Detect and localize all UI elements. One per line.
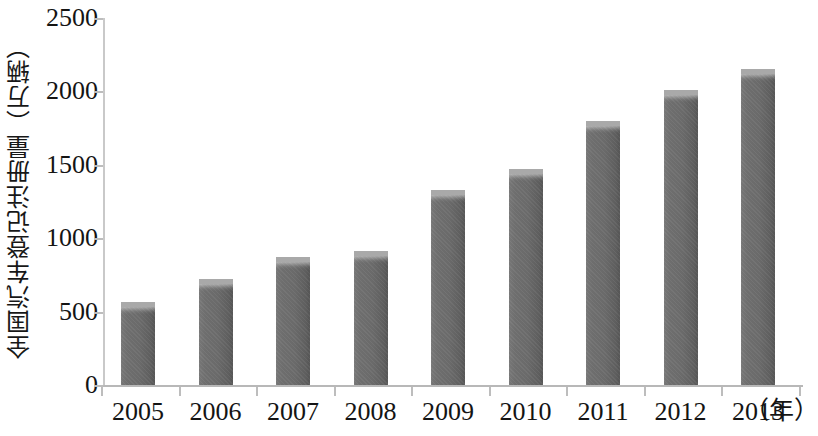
bar-2005	[121, 302, 155, 385]
x-tick-mark	[799, 387, 801, 396]
x-axis-line	[103, 385, 803, 387]
x-tick-mark	[101, 387, 103, 396]
bar-chart: 全国汽车登记注册量（万辆） 2500 2000 1500 1000 500 0 …	[0, 0, 818, 436]
bar-2010	[509, 169, 543, 385]
y-tick-label-1500: 1500	[36, 152, 98, 178]
y-tick-mark	[94, 238, 103, 240]
x-tick-label-2006: 2006	[171, 399, 261, 425]
x-tick-mark	[721, 387, 723, 396]
y-tick-label-0: 0	[36, 372, 98, 398]
x-tick-label-2007: 2007	[248, 399, 338, 425]
y-axis-title: 全国汽车登记注册量（万辆）	[0, 0, 40, 392]
y-tick-mark	[94, 165, 103, 167]
y-axis-tick-labels: 2500 2000 1500 1000 500 0	[36, 0, 98, 436]
bar-2009	[431, 190, 465, 385]
plot-area	[103, 18, 803, 385]
x-tick-label-2008: 2008	[326, 399, 416, 425]
x-tick-mark	[256, 387, 258, 396]
x-tick-label-2005: 2005	[93, 399, 183, 425]
x-tick-mark	[566, 387, 568, 396]
bar-2012	[664, 90, 698, 385]
bar-2006	[199, 279, 233, 385]
bar-2008	[354, 251, 388, 385]
y-tick-mark	[94, 18, 103, 20]
bar-2007	[276, 257, 310, 385]
x-tick-mark	[489, 387, 491, 396]
x-tick-mark	[411, 387, 413, 396]
y-tick-mark	[94, 91, 103, 93]
y-axis-title-text: 全国汽车登记注册量（万辆）	[8, 34, 32, 359]
x-axis-unit-label: （年）	[744, 398, 818, 423]
x-tick-label-2012: 2012	[636, 399, 726, 425]
y-tick-label-1000: 1000	[36, 225, 98, 251]
bar-2011	[586, 121, 620, 385]
y-tick-label-2500: 2500	[36, 5, 98, 31]
x-tick-label-2011: 2011	[558, 399, 648, 425]
y-tick-mark	[94, 312, 103, 314]
y-tick-label-2000: 2000	[36, 78, 98, 104]
x-tick-label-2010: 2010	[481, 399, 571, 425]
x-tick-mark	[179, 387, 181, 396]
x-tick-label-2009: 2009	[403, 399, 493, 425]
y-tick-label-500: 500	[36, 299, 98, 325]
bar-2013	[741, 69, 775, 385]
x-tick-mark	[334, 387, 336, 396]
x-tick-mark	[644, 387, 646, 396]
